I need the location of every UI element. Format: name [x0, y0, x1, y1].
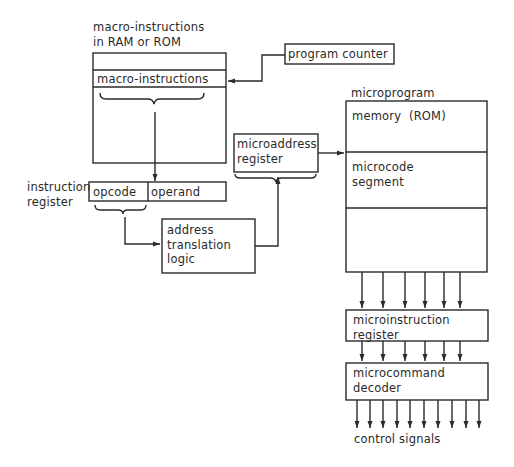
address-translation-label: address translation logic	[167, 223, 231, 267]
diagram-canvas	[0, 0, 514, 467]
macro-brace	[100, 93, 204, 104]
microcommand-decoder-label: microcommand decoder	[353, 366, 445, 395]
arrow-atl-to-mar	[255, 177, 278, 246]
microprogram-caption: microprogram	[351, 86, 435, 100]
mar-brace	[235, 174, 316, 182]
control-signal-arrows	[357, 400, 479, 428]
micro-memory-rom-label: memory (ROM)	[352, 109, 446, 123]
macro-memory-caption-line2: in RAM or ROM	[93, 35, 181, 49]
macro-memory-block	[93, 53, 226, 163]
macro-instructions-row-label: macro-instructions	[97, 72, 208, 86]
instruction-register-caption-line2: register	[27, 195, 73, 209]
microcode-segment-label: microcode segment	[352, 160, 414, 189]
microaddress-register-label: microaddress register	[237, 137, 317, 166]
microinstruction-register-label: microinstruction register	[353, 313, 450, 342]
macro-memory-caption-line1: macro-instructions	[93, 20, 204, 34]
control-signals-caption: control signals	[354, 432, 441, 446]
program-counter-label: program counter	[288, 47, 388, 61]
mir-to-decoder-lines	[362, 341, 460, 361]
opcode-brace	[95, 205, 146, 214]
arrow-opcode-to-atl	[125, 217, 160, 244]
memory-to-mir-lines	[362, 272, 460, 308]
arrow-pc-to-macro	[228, 55, 285, 81]
operand-label: operand	[151, 185, 200, 199]
instruction-register-caption-line1: instruction	[27, 180, 91, 194]
opcode-label: opcode	[93, 185, 136, 199]
